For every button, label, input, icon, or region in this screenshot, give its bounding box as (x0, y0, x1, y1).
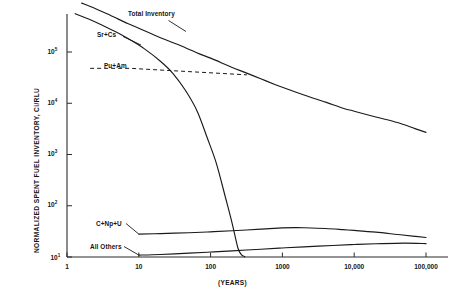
spent-fuel-inventory-chart (0, 0, 472, 294)
y-tick-label: 102 (48, 201, 58, 208)
curve-label-pu-am: Pu+Am (104, 62, 127, 69)
curve-label-c-np-u: C+Np+U (96, 220, 122, 227)
x-tick-label: 1 (65, 263, 69, 270)
curve-label-total-inventory: Total Inventory (128, 10, 175, 17)
label-leader-total-inventory (169, 21, 187, 32)
label-leader-all-others (124, 247, 139, 256)
label-leader-c-np-u (126, 224, 139, 235)
y-tick-label: 104 (48, 99, 58, 106)
x-tick-label: 1000 (275, 263, 289, 270)
curve-label-sr-cs: Sr+Cs (97, 31, 116, 38)
series-line-total-inventory (82, 3, 426, 132)
x-axis-title: (YEARS) (218, 279, 247, 286)
figure-container: 110100100010,000100,000101102103104105(Y… (0, 0, 472, 294)
y-tick-label: 101 (51, 254, 61, 261)
y-tick-label: 103 (48, 150, 58, 157)
x-tick-label: 100,000 (414, 263, 438, 270)
label-leader-sr-cs (123, 37, 141, 46)
x-tick-label: 10 (135, 263, 142, 270)
x-tick-label: 100 (205, 263, 216, 270)
series-line-c-np-u (139, 228, 426, 238)
curve-label-all-others: All Others (90, 243, 122, 250)
y-axis-title: NORMALIZED SPENT FUEL INVENTORY, Ci/RLU (33, 88, 40, 253)
x-tick-label: 10,000 (344, 263, 364, 270)
y-tick-label: 105 (48, 48, 58, 55)
